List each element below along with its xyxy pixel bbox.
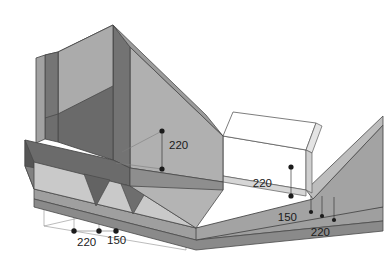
dimension-marker-dot	[113, 228, 118, 233]
dimension-label-220: 220	[311, 226, 330, 238]
dimension-marker-dot	[332, 218, 336, 222]
channel-left-rib-outer-face	[36, 55, 45, 143]
dimension-marker-dot	[96, 228, 101, 233]
isometric-structural-drawing: 220 220 220 150 150 220	[0, 0, 387, 266]
dimension-marker-dot	[159, 128, 164, 133]
diagram-canvas: 220 220 220 150 150 220	[0, 0, 387, 266]
dimension-marker-dot	[320, 214, 324, 218]
dimension-marker-dot	[288, 193, 293, 198]
dimension-marker-dot	[159, 166, 164, 171]
main-wall-left-dark-edge	[113, 25, 130, 168]
dimension-marker-dot	[288, 164, 293, 169]
dimension-marker-dot	[71, 228, 76, 233]
dimension-label-150: 150	[278, 211, 297, 223]
dimension-label-150: 150	[107, 234, 126, 246]
dimension-label-220: 220	[77, 236, 96, 248]
dimension-marker-dot	[309, 210, 313, 214]
channel-left-rib-inner	[45, 52, 58, 118]
central-web-panel	[223, 112, 322, 196]
dimension-label-220: 220	[253, 177, 272, 189]
dimension-label-220: 220	[169, 139, 188, 151]
web-panel-right-edge	[306, 150, 312, 193]
